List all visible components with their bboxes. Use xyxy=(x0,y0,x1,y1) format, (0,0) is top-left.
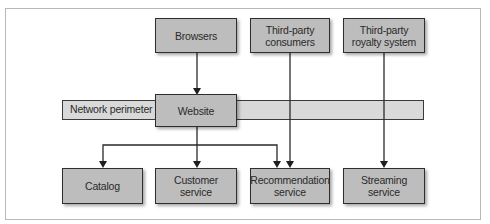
label-line-1: Recommendation xyxy=(250,174,330,186)
node-third-party-consumers-label: Third-party consumers xyxy=(265,24,315,48)
node-third-party-consumers: Third-party consumers xyxy=(250,18,330,53)
arrowhead-streaming xyxy=(380,161,388,168)
node-recommendation-service: Recommendation service xyxy=(250,168,330,204)
arrowhead-recommendation-2 xyxy=(286,161,294,168)
node-streaming-service-label: Streaming service xyxy=(361,174,407,198)
node-website: Website xyxy=(155,94,237,127)
node-catalog-label: Catalog xyxy=(85,180,120,192)
label-line-2: service xyxy=(274,186,306,198)
node-browsers: Browsers xyxy=(155,18,237,53)
node-third-party-royalty-system: Third-party royalty system xyxy=(343,18,425,53)
node-third-party-royalty-label: Third-party royalty system xyxy=(352,24,416,48)
node-streaming-service: Streaming service xyxy=(343,168,425,204)
node-recommendation-service-label: Recommendation service xyxy=(250,174,330,198)
label-line-2: consumers xyxy=(265,36,315,48)
arrowhead-catalog xyxy=(99,161,107,168)
node-customer-service-label: Customer service xyxy=(174,174,218,198)
node-website-label: Website xyxy=(178,105,214,117)
label-line-2: service xyxy=(368,186,400,198)
node-catalog: Catalog xyxy=(62,168,143,204)
label-line-1: Customer xyxy=(174,174,218,186)
label-line-1: Third-party xyxy=(360,24,409,36)
arrowhead-customer xyxy=(193,161,201,168)
node-customer-service: Customer service xyxy=(155,168,237,204)
label-line-1: Third-party xyxy=(266,24,315,36)
label-line-2: royalty system xyxy=(352,36,416,48)
edge-website-branch xyxy=(103,145,277,162)
node-browsers-label: Browsers xyxy=(175,30,217,42)
label-line-1: Streaming xyxy=(361,174,407,186)
arrowheads xyxy=(99,88,388,168)
label-line-2: service xyxy=(180,186,212,198)
arrowhead-recommendation-1 xyxy=(273,161,281,168)
